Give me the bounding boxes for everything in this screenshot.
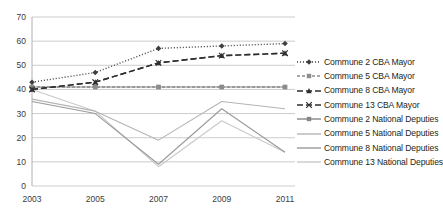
legend-item[interactable]: Commune 2 National Deputies bbox=[296, 112, 438, 126]
legend-item[interactable]: Commune 8 CBA Mayor bbox=[296, 84, 438, 98]
legend-item-label: Commune 13 National Deputies bbox=[324, 158, 443, 167]
legend-key-icon bbox=[296, 155, 322, 169]
legend-item-label: Commune 13 CBA Mayor bbox=[324, 101, 419, 110]
legend-key-icon bbox=[296, 127, 322, 141]
x-tick-label: 2007 bbox=[149, 194, 168, 204]
legend-item[interactable]: Commune 13 CBA Mayor bbox=[296, 98, 438, 112]
data-point-marker bbox=[92, 70, 98, 76]
chart-canvas: 010203040506070 20032005200720092011 bbox=[0, 0, 300, 219]
legend-item-label: Commune 2 National Deputies bbox=[324, 115, 438, 124]
legend-item-label: Commune 8 National Deputies bbox=[324, 144, 438, 153]
legend-item[interactable]: Commune 13 National Deputies bbox=[296, 155, 438, 169]
legend-item[interactable]: Commune 5 CBA Mayor bbox=[296, 69, 438, 83]
legend-item-label: Commune 2 CBA Mayor bbox=[324, 58, 415, 67]
legend-item-label: Commune 5 CBA Mayor bbox=[324, 72, 415, 81]
y-tick-label: 0 bbox=[21, 181, 26, 191]
data-series bbox=[29, 41, 288, 167]
y-tick-label: 40 bbox=[17, 84, 27, 94]
y-tick-label: 70 bbox=[17, 12, 27, 22]
data-point-marker bbox=[93, 85, 97, 89]
x-tick-label: 2005 bbox=[86, 194, 105, 204]
y-tick-label: 10 bbox=[17, 157, 27, 167]
series-line bbox=[32, 53, 285, 89]
data-point-marker bbox=[156, 85, 160, 89]
y-tick-label: 50 bbox=[17, 60, 27, 70]
data-point-marker bbox=[219, 43, 225, 49]
legend-key-icon bbox=[296, 98, 322, 112]
y-tick-labels: 010203040506070 bbox=[17, 12, 27, 191]
data-point-marker bbox=[156, 46, 162, 52]
data-point-marker bbox=[306, 59, 312, 65]
data-point-marker bbox=[307, 117, 311, 121]
data-point-marker bbox=[283, 85, 287, 89]
legend-item[interactable]: Commune 2 CBA Mayor bbox=[296, 55, 438, 69]
legend-item[interactable]: Commune 5 National Deputies bbox=[296, 126, 438, 140]
series-line bbox=[32, 89, 285, 166]
chart-legend: Commune 2 CBA MayorCommune 5 CBA MayorCo… bbox=[296, 55, 438, 169]
series-line bbox=[32, 53, 285, 89]
gridlines bbox=[32, 17, 295, 186]
data-point-marker bbox=[220, 85, 224, 89]
legend-key-icon bbox=[296, 141, 322, 155]
data-point-marker bbox=[29, 79, 35, 85]
y-tick-label: 60 bbox=[17, 36, 27, 46]
legend-item-label: Commune 8 CBA Mayor bbox=[324, 86, 415, 95]
data-point-marker bbox=[307, 74, 311, 78]
legend-key-icon bbox=[296, 69, 322, 83]
legend-key-icon bbox=[296, 112, 322, 126]
plot-area: 010203040506070 20032005200720092011 bbox=[0, 0, 300, 219]
y-tick-label: 20 bbox=[17, 133, 27, 143]
legend-key-icon bbox=[296, 84, 322, 98]
y-tick-label: 30 bbox=[17, 109, 27, 119]
x-tick-labels: 20032005200720092011 bbox=[23, 194, 295, 204]
legend-item[interactable]: Commune 8 National Deputies bbox=[296, 141, 438, 155]
x-tick-label: 2003 bbox=[23, 194, 42, 204]
legend-item-label: Commune 5 National Deputies bbox=[324, 129, 438, 138]
x-tick-label: 2011 bbox=[276, 194, 295, 204]
data-point-marker bbox=[282, 41, 288, 47]
legend-key-icon bbox=[296, 55, 322, 69]
x-tick-label: 2009 bbox=[212, 194, 231, 204]
